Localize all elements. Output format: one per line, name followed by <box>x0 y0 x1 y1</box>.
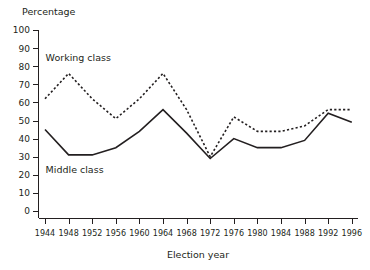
x-axis-tick-label: 1988 <box>294 229 314 238</box>
line-chart: Percentage 0102030405060708090100 194419… <box>0 0 370 270</box>
y-axis-tick-label: 40 <box>19 134 31 144</box>
y-axis-tick-label: 10 <box>19 188 31 198</box>
x-axis-tick-label: 1948 <box>58 229 78 238</box>
y-axis-tick-label: 0 <box>24 206 30 216</box>
y-axis-tick-label: 80 <box>19 62 31 72</box>
y-axis-tick-labels: 0102030405060708090100 <box>13 25 30 216</box>
y-axis-tick-label: 70 <box>19 80 31 90</box>
y-axis-tick-label: 90 <box>19 44 31 54</box>
x-axis-tick-label: 1964 <box>153 229 173 238</box>
y-axis-tick-label: 100 <box>13 25 30 35</box>
x-axis-tick-label: 1980 <box>247 229 267 238</box>
x-axis-tick-label: 1976 <box>224 229 244 238</box>
series-line-working-class <box>45 73 352 156</box>
series-annotation-working-class: Working class <box>46 52 111 63</box>
y-axis-title: Percentage <box>22 6 76 17</box>
y-axis-tick-label: 50 <box>19 116 31 126</box>
x-axis-tick-label: 1972 <box>200 229 220 238</box>
x-axis-ticks <box>46 219 353 225</box>
y-axis-ticks <box>33 31 39 212</box>
y-axis-tick-label: 60 <box>19 98 31 108</box>
x-axis-title: Election year <box>167 249 229 260</box>
y-axis-tick-label: 20 <box>19 170 31 180</box>
series-line-middle-class <box>45 110 352 159</box>
x-axis-tick-label: 1944 <box>35 229 55 238</box>
series-annotation-middle-class: Middle class <box>46 164 104 175</box>
y-axis-tick-label: 30 <box>19 152 31 162</box>
x-axis-tick-label: 1968 <box>176 229 196 238</box>
x-axis-tick-label: 1952 <box>82 229 102 238</box>
x-axis-tick-label: 1984 <box>271 229 291 238</box>
x-axis-tick-label: 1996 <box>342 229 362 238</box>
x-axis-tick-labels: 1944194819521956196019641968197219761980… <box>35 229 362 238</box>
chart-container: Percentage 0102030405060708090100 194419… <box>0 0 370 270</box>
x-axis-tick-label: 1992 <box>318 229 338 238</box>
x-axis-tick-label: 1960 <box>129 229 149 238</box>
x-axis-tick-label: 1956 <box>106 229 126 238</box>
